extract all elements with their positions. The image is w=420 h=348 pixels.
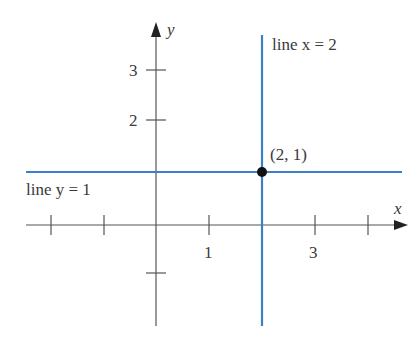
y-axis-label: y: [165, 20, 175, 39]
line-x-label: line x = 2: [272, 35, 337, 54]
point-label: (2, 1): [270, 145, 307, 164]
y-tick-label-3: 3: [129, 61, 138, 80]
x-axis-arrow-icon: [394, 220, 408, 230]
y-axis-arrow-icon: [151, 22, 161, 37]
plot-area: x y 1 3 2 3 line y = 1 line x = 2 (2, 1): [0, 0, 420, 348]
x-axis: [26, 215, 408, 235]
x-axis-label: x: [393, 199, 402, 218]
coordinate-plane-figure: x y 1 3 2 3 line y = 1 line x = 2 (2, 1): [0, 0, 420, 348]
y-axis: [146, 22, 166, 326]
y-tick-label-2: 2: [129, 111, 138, 130]
x-tick-label-1: 1: [204, 243, 213, 262]
x-tick-label-3: 3: [309, 243, 318, 262]
intersection-point: [257, 167, 267, 177]
line-y-label: line y = 1: [26, 180, 91, 199]
